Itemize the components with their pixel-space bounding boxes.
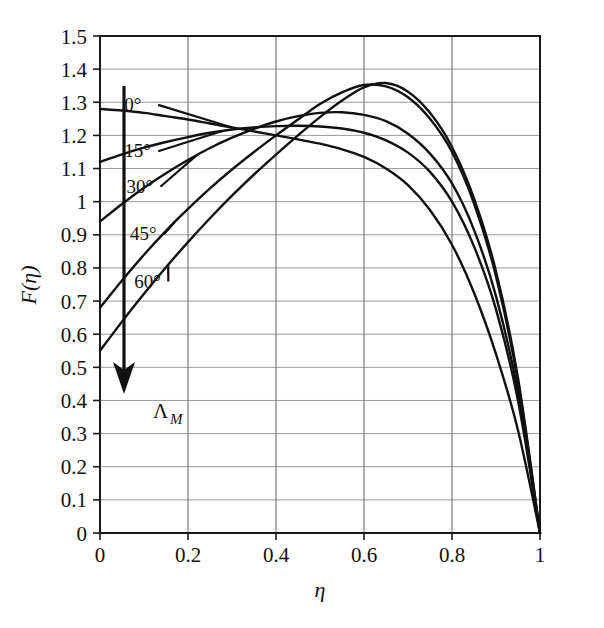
y-tick-label: 1.3 xyxy=(61,91,87,115)
y-tick-label: 1.5 xyxy=(61,25,87,49)
x-tick-label: 0.2 xyxy=(175,543,201,567)
curve-label-45deg: 45° xyxy=(130,223,157,244)
y-tick-label: 0.1 xyxy=(61,488,87,512)
x-axis-title: η xyxy=(315,577,326,602)
y-tick-label: 0.3 xyxy=(61,422,87,446)
chart-figure: 00.10.20.30.40.50.60.70.80.911.11.21.31.… xyxy=(0,0,604,628)
y-tick-label: 1.1 xyxy=(61,157,87,181)
x-tick-label: 0.8 xyxy=(439,543,465,567)
x-tick-label: 0 xyxy=(95,543,106,567)
curve-label-30deg: 30° xyxy=(126,176,153,197)
y-tick-label: 0 xyxy=(77,522,88,546)
x-tick-label: 0.6 xyxy=(351,543,377,567)
y-tick-label: 0.4 xyxy=(61,389,88,413)
y-tick-label: 0.8 xyxy=(61,256,87,280)
y-axis-title: F(η) xyxy=(16,265,41,305)
y-tick-label: 1.4 xyxy=(61,58,88,82)
y-tick-label: 0.5 xyxy=(61,356,87,380)
sweep-label: Λ xyxy=(153,399,169,423)
y-tick-label: 0.9 xyxy=(61,223,87,247)
curve-label-15deg: 15° xyxy=(124,140,151,161)
y-tick-label: 0.6 xyxy=(61,323,87,347)
y-tick-label: 0.7 xyxy=(61,290,87,314)
sweep-label-subscript: M xyxy=(169,411,184,427)
curve-label-0deg: 0° xyxy=(124,94,141,115)
y-tick-label: 1.2 xyxy=(61,124,87,148)
y-tick-label: 0.2 xyxy=(61,455,87,479)
y-axis-title-group: F(η) xyxy=(16,265,41,305)
x-tick-label: 1 xyxy=(535,543,546,567)
y-tick-label: 1 xyxy=(77,190,88,214)
curve-label-60deg: 60° xyxy=(134,271,161,292)
x-tick-label: 0.4 xyxy=(263,543,290,567)
chart-svg: 00.10.20.30.40.50.60.70.80.911.11.21.31.… xyxy=(0,0,604,628)
